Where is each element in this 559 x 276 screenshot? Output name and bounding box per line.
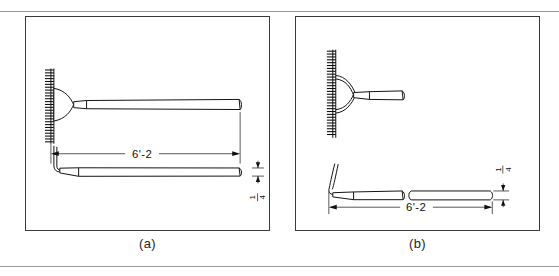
handle-front-a	[74, 99, 242, 109]
rake-side-b	[329, 164, 493, 200]
fraction-denominator-a: 4	[258, 195, 267, 200]
handle-far-segment-b	[409, 191, 493, 200]
panel-a-drawing: 6'-2 1 4	[26, 17, 269, 230]
figure-container: 6'-2 1 4	[0, 0, 559, 276]
head-bracket-a	[54, 88, 74, 121]
rake-head-top-b	[327, 50, 356, 138]
caption-panel-b: (b)	[295, 236, 540, 251]
fraction-numerator-a: 1	[248, 195, 257, 200]
caption-panel-a: (a)	[25, 236, 270, 251]
dimension-overall-length-a: 6'-2	[51, 112, 240, 164]
dimension-label-length-b: 6'-2	[406, 201, 426, 213]
rake-head-front-a	[45, 69, 74, 144]
panel-a: 6'-2 1 4	[25, 16, 270, 231]
dimension-thickness-b: 1 4	[493, 166, 512, 208]
bottom-divider-rule	[0, 266, 559, 267]
dimension-label-length-a: 6'-2	[132, 148, 152, 160]
head-braces-b	[336, 75, 356, 113]
handle-top-b	[354, 91, 405, 100]
fraction-denominator-b: 4	[504, 167, 513, 172]
dimension-thickness-a: 1 4	[248, 161, 267, 202]
panel-b-drawing: 6'-2 1 4	[296, 17, 539, 230]
panel-b: 6'-2 1 4	[295, 16, 540, 231]
fraction-numerator-b: 1	[494, 167, 503, 172]
fraction-quarter-a: 1 4	[248, 193, 267, 201]
top-divider-rule	[0, 11, 559, 12]
tine-group-a	[45, 70, 54, 142]
fraction-quarter-b: 1 4	[494, 166, 513, 174]
tine-group-b	[327, 51, 336, 134]
